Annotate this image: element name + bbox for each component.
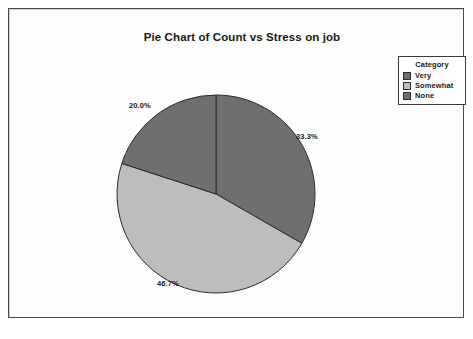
legend-swatch-somewhat xyxy=(403,82,411,90)
chart-frame: Pie Chart of Count vs Stress on job 33.3… xyxy=(8,8,464,318)
legend-item-somewhat[interactable]: Somewhat xyxy=(403,81,461,90)
legend-swatch-very xyxy=(403,72,411,80)
pie-label-none: 20.0% xyxy=(129,101,151,110)
legend-label-none: None xyxy=(415,91,434,100)
legend-label-very: Very xyxy=(415,71,431,80)
legend-item-none[interactable]: None xyxy=(403,91,461,100)
legend-title: Category xyxy=(403,60,461,69)
pie-label-somewhat: 46.7% xyxy=(157,279,179,288)
legend: Category Very Somewhat None xyxy=(398,56,466,105)
pie-label-very: 33.3% xyxy=(296,132,318,141)
legend-label-somewhat: Somewhat xyxy=(415,81,453,90)
pie-slice-group xyxy=(117,95,315,293)
legend-item-very[interactable]: Very xyxy=(403,71,461,80)
pie-chart xyxy=(113,91,319,297)
legend-swatch-none xyxy=(403,92,411,100)
pie-svg xyxy=(113,91,319,297)
chart-title: Pie Chart of Count vs Stress on job xyxy=(9,31,463,43)
